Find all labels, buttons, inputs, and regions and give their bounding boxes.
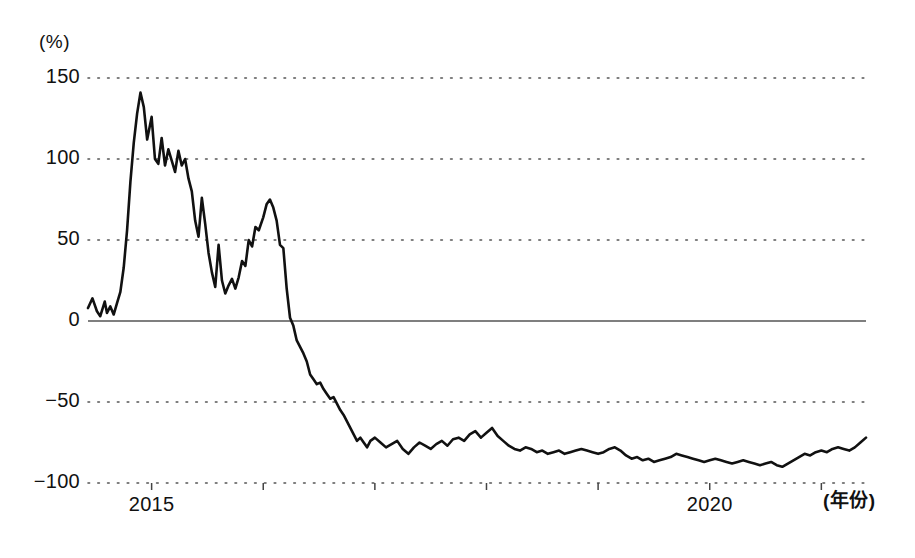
x-tick-label-2015: 2015: [112, 493, 192, 516]
y-tick-label-2: 50: [0, 227, 80, 250]
series-line-同比增速: [88, 93, 866, 467]
data-series-line: [88, 93, 866, 467]
y-tick-label-5: −100: [0, 470, 80, 493]
y-tick-label-1: 100: [0, 146, 80, 169]
x-axis-ticks: [152, 483, 822, 490]
gridlines: [88, 78, 866, 483]
y-tick-label-3: 0: [0, 308, 80, 331]
chart-container: (%) (年份) 150100500−50−100 20152020: [0, 0, 915, 558]
y-tick-label-0: 150: [0, 65, 80, 88]
x-tick-label-2020: 2020: [670, 493, 750, 516]
line-chart-plot: [0, 0, 915, 558]
y-tick-label-4: −50: [0, 389, 80, 412]
